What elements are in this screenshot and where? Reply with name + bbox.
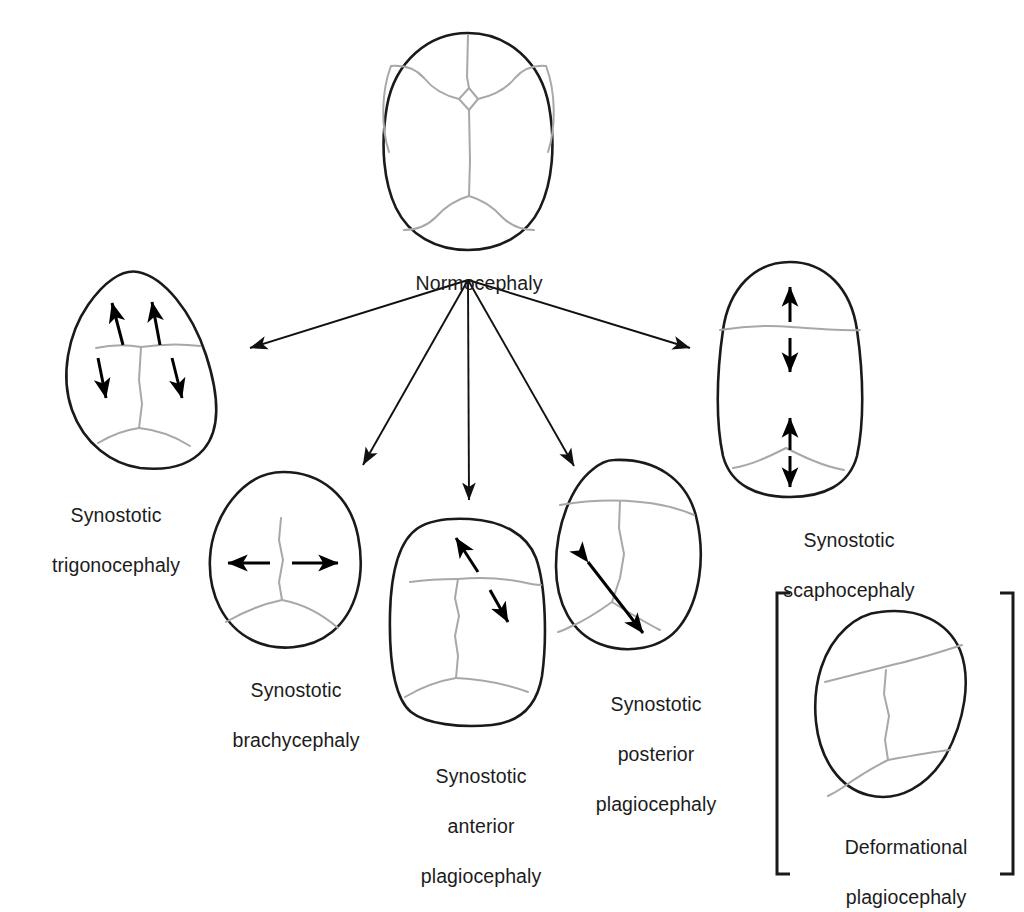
caption-anterior-plagiocephaly-line2: anterior [448, 815, 515, 837]
skull-normocephaly [383, 33, 554, 250]
caption-scaphocephaly-line1: Synostotic [804, 529, 895, 551]
bracket-right [1000, 593, 1013, 874]
caption-anterior-plagiocephaly-line3: plagiocephaly [421, 865, 542, 887]
skull-trigonocephaly [66, 272, 216, 469]
suture-sagittal [469, 110, 470, 196]
caption-scaphocephaly-line2: scaphocephaly [783, 579, 914, 601]
skull-anterior-plagiocephaly [390, 519, 545, 726]
skull-brachycephaly [210, 472, 361, 648]
skull-outline-trigonocephaly [66, 272, 216, 469]
skull-outline-anterior-plagiocephaly [390, 519, 545, 726]
caption-trigonocephaly: Synostotic trigonocephaly [5, 478, 205, 603]
caption-deformational-plagiocephaly-line2: plagiocephaly [846, 886, 967, 908]
caption-brachycephaly: Synostotic brachycephaly [185, 653, 385, 778]
skull-outline-posterior-plagiocephaly [556, 460, 701, 649]
caption-scaphocephaly: Synostotic scaphocephaly [738, 503, 938, 628]
caption-trigonocephaly-line1: Synostotic [71, 504, 162, 526]
caption-deformational-plagiocephaly-line1: Deformational [845, 836, 968, 858]
caption-normocephaly-line1: Normocephaly [416, 272, 543, 294]
skull-outline-deformational-plagiocephaly [815, 611, 965, 797]
caption-posterior-plagiocephaly-line2: posterior [618, 743, 695, 765]
caption-normocephaly: Normocephaly [368, 246, 568, 321]
caption-anterior-plagiocephaly: Synostotic anterior plagiocephaly [370, 739, 570, 912]
caption-brachycephaly-line2: brachycephaly [233, 729, 360, 751]
skull-deformational-plagiocephaly [815, 611, 965, 797]
caption-posterior-plagiocephaly-line3: plagiocephaly [596, 793, 717, 815]
bracket-left [777, 593, 790, 874]
skull-posterior-plagiocephaly [556, 460, 701, 649]
caption-brachycephaly-line1: Synostotic [251, 679, 342, 701]
caption-posterior-plagiocephaly: Synostotic posterior plagiocephaly [545, 667, 745, 842]
skull-scaphocephaly [718, 262, 863, 497]
caption-deformational-plagiocephaly: Deformational plagiocephaly [790, 810, 1000, 912]
skull-outline-brachycephaly [210, 472, 361, 648]
caption-posterior-plagiocephaly-line1: Synostotic [611, 693, 702, 715]
caption-trigonocephaly-line2: trigonocephaly [52, 554, 180, 576]
caption-anterior-plagiocephaly-line1: Synostotic [436, 765, 527, 787]
